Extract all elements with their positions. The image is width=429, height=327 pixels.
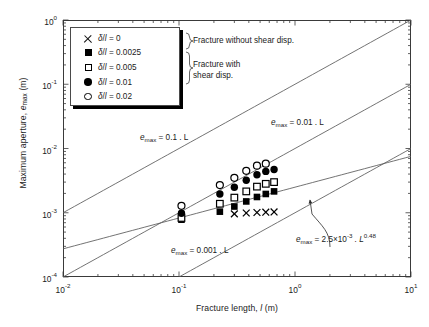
legend-symbol [78, 49, 98, 56]
y-axis-title-suffix: (m) [18, 77, 28, 93]
filled-circle-marker-icon [84, 78, 92, 86]
annotation-fracture-with-shear: Fracture withshear disp. [193, 60, 240, 81]
legend-row: δ/l = 0.02 [71, 89, 179, 104]
y-axis-title-subscript: max [21, 93, 28, 105]
series-filled-square [178, 188, 277, 223]
open-square-marker-icon [85, 64, 92, 71]
legend-row: δ/l = 0.0025 [71, 46, 179, 61]
y-tick-exponent: -3 [51, 207, 57, 214]
y-tick-exponent: -4 [51, 271, 57, 278]
x-axis-title: Fracture length, l (m) [63, 303, 411, 313]
x-tick-exponent: 1 [414, 282, 417, 289]
x-tick-mantissa: 10 [405, 285, 414, 295]
x-tick-exponent: 0 [298, 282, 301, 289]
x-tick-label: 10-1 [164, 282, 194, 295]
eq-power-exp2: 0.48 [364, 232, 376, 239]
eq-e01-rhs: = 0.1 . L [156, 133, 188, 142]
y-tick-label: 10-1 [29, 78, 57, 91]
open-circle-marker-icon [84, 93, 92, 101]
eq-e001-sub: max [276, 121, 288, 128]
eq-power-sub: max [301, 238, 313, 245]
y-tick-label: 100 [29, 14, 57, 27]
legend-row: δ/l = 0.005 [71, 60, 179, 75]
y-tick-mantissa: 10 [44, 17, 53, 27]
legend-row: δ/l = 0.01 [71, 75, 179, 90]
equation-label-e0001: emax = 0.001 . L [171, 246, 228, 256]
x-tick-mantissa: 10 [289, 285, 298, 295]
eq-e01-sub: max [145, 136, 157, 143]
x-tick-exponent: -1 [181, 282, 187, 289]
eq-power-mid: = 2.5×10 [312, 235, 347, 244]
x-tick-label: 100 [280, 282, 310, 295]
y-tick-exponent: 0 [54, 14, 57, 21]
figure-container: 10-4 10-3 10-2 10-1 100 10-2 10-1 100 10… [0, 0, 429, 327]
equation-label-e001: emax = 0.01 . L [271, 118, 324, 128]
y-tick-exponent: -1 [51, 78, 57, 85]
x-tick-label: 10-2 [48, 282, 78, 295]
y-tick-exponent: -2 [51, 143, 57, 150]
y-tick-label: 10-3 [29, 207, 57, 220]
y-tick-label: 10-2 [29, 143, 57, 156]
legend-row: δ/l = 0 [71, 31, 179, 46]
chart-svg [0, 0, 429, 327]
y-axis-title-prefix: Maximum aperture, [18, 110, 28, 188]
x-tick-mantissa: 10 [172, 285, 181, 295]
x-tick-exponent: -2 [65, 282, 71, 289]
group-braces [186, 33, 193, 84]
legend-label: δ/l = 0 [98, 34, 121, 43]
legend-symbol [78, 34, 98, 42]
legend-symbol [78, 64, 98, 71]
x-tick-label: 101 [396, 282, 426, 295]
y-axis-title-symbol: e [18, 105, 28, 110]
equation-label-power-law: emax = 2.5×10-3 . L0.48 [296, 232, 376, 245]
annotation-shear-line2: shear disp. [193, 71, 233, 80]
legend-label: δ/l = 0.0025 [98, 48, 141, 57]
eq-e0001-rhs: = 0.001 . L [187, 246, 228, 255]
legend-label: δ/l = 0.005 [98, 63, 137, 72]
legend-symbol [78, 93, 98, 101]
legend-label: δ/l = 0.01 [98, 78, 132, 87]
eq-power-mid2: . L [352, 235, 363, 244]
series-cross [231, 209, 278, 218]
x-tick-mantissa: 10 [56, 285, 65, 295]
filled-square-marker-icon [85, 49, 92, 56]
data-markers [178, 160, 278, 223]
cross-marker-icon [84, 34, 92, 42]
eq-e0001-sub: max [176, 249, 188, 256]
y-axis-title: Maximum aperture, emax (m) [18, 48, 28, 218]
legend: δ/l = 0δ/l = 0.0025δ/l = 0.005δ/l = 0.01… [70, 27, 180, 106]
legend-label: δ/l = 0.02 [98, 92, 132, 101]
eq-e001-rhs: = 0.01 . L [287, 118, 324, 127]
x-axis-title-prefix: Fracture length, [196, 303, 260, 313]
annotation-fracture-without-shear: Fracture without shear disp. [193, 36, 294, 47]
x-axis-title-suffix: (m) [262, 303, 278, 313]
legend-symbol [78, 78, 98, 86]
equation-label-e01: emax = 0.1 . L [140, 133, 188, 143]
annotation-shear-line1: Fracture with [193, 60, 240, 69]
